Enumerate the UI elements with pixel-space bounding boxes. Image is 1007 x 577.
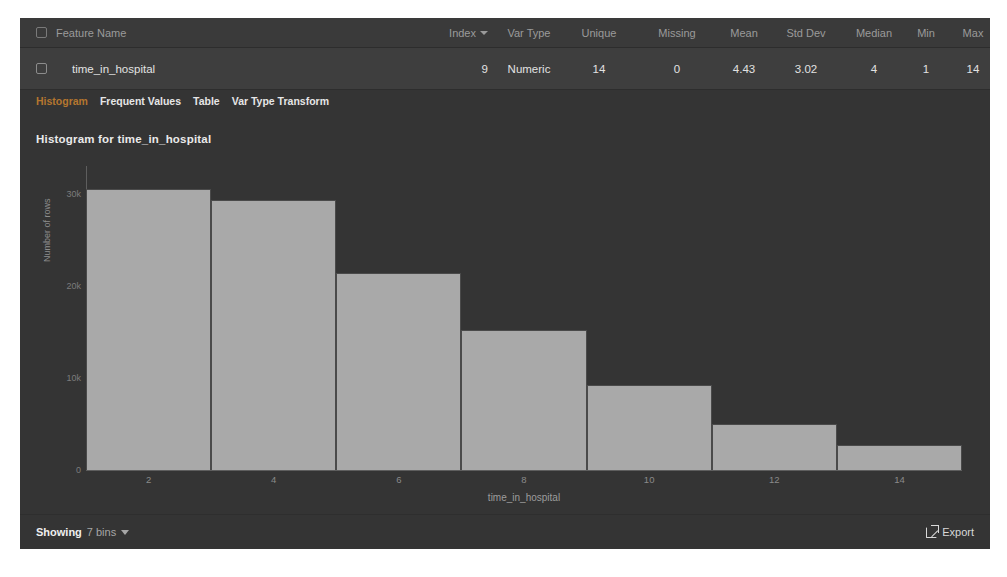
histogram-bar[interactable] (461, 330, 586, 470)
checkbox-icon (36, 63, 47, 74)
column-label: Median (856, 27, 892, 39)
feature-table-header: Feature Name Index Var Type Unique Missi… (20, 18, 990, 48)
x-tick-label: 8 (521, 474, 526, 485)
app-root: Feature Name Index Var Type Unique Missi… (0, 0, 1007, 577)
histogram-bar[interactable] (211, 200, 336, 470)
cell-var-type: Numeric (498, 48, 560, 89)
histogram-bar[interactable] (587, 385, 712, 470)
cell-min: 1 (908, 48, 944, 89)
column-label: Missing (658, 27, 695, 39)
column-label: Feature Name (56, 27, 126, 39)
cell-missing: 0 (648, 48, 706, 89)
checkbox-icon (36, 27, 47, 38)
plot-area: Number of rows time_in_hospital 010k20k3… (72, 166, 962, 470)
cell-max: 14 (956, 48, 990, 89)
histogram-bar[interactable] (837, 445, 962, 470)
tab-histogram[interactable]: Histogram (36, 90, 88, 112)
y-tick-label: 10k (66, 373, 81, 383)
column-header-max[interactable]: Max (956, 18, 990, 47)
cell-index: 9 (436, 48, 488, 89)
column-header-median[interactable]: Median (848, 18, 900, 47)
tab-frequent-values[interactable]: Frequent Values (100, 90, 181, 112)
chevron-down-icon (121, 530, 129, 535)
export-label: Export (942, 526, 974, 538)
column-label: Min (917, 27, 935, 39)
chevron-down-icon (480, 31, 488, 35)
detail-tabs: Histogram Frequent Values Table Var Type… (20, 90, 990, 112)
cell-mean: 4.43 (720, 48, 768, 89)
showing-label: Showing (36, 526, 82, 538)
external-link-icon (926, 527, 937, 538)
column-header-std-dev[interactable]: Std Dev (780, 18, 832, 47)
histogram-bar[interactable] (712, 424, 837, 470)
y-tick-label: 20k (66, 281, 81, 291)
histogram-chart: Histogram for time_in_hospital Number of… (20, 122, 990, 514)
cell-feature-name: time_in_hospital (72, 48, 452, 89)
column-header-mean[interactable]: Mean (720, 18, 768, 47)
column-label: Std Dev (786, 27, 825, 39)
column-label: Unique (582, 27, 617, 39)
y-tick-label: 30k (66, 189, 81, 199)
x-tick-label: 4 (271, 474, 276, 485)
histogram-bar[interactable] (336, 273, 461, 470)
column-header-unique[interactable]: Unique (572, 18, 626, 47)
column-label: Max (963, 27, 984, 39)
cell-unique: 14 (572, 48, 626, 89)
column-label: Var Type (507, 27, 550, 39)
y-axis-label: Number of rows (42, 198, 52, 262)
column-header-index[interactable]: Index (436, 18, 488, 47)
x-tick-label: 6 (396, 474, 401, 485)
x-axis-line (86, 470, 962, 471)
x-tick-label: 10 (644, 474, 655, 485)
select-all-checkbox[interactable] (30, 18, 52, 47)
column-header-min[interactable]: Min (908, 18, 944, 47)
cell-median: 4 (848, 48, 900, 89)
export-button[interactable]: Export (926, 526, 974, 538)
column-label: Mean (730, 27, 758, 39)
y-tick-label: 0 (76, 465, 81, 475)
x-tick-label: 2 (146, 474, 151, 485)
row-select-checkbox[interactable] (30, 48, 52, 89)
histogram-bar[interactable] (86, 189, 211, 470)
table-row[interactable]: time_in_hospital 9 Numeric 14 0 4.43 3.0… (20, 48, 990, 90)
x-tick-label: 12 (769, 474, 780, 485)
chart-title: Histogram for time_in_hospital (36, 133, 211, 145)
bins-value: 7 bins (87, 526, 116, 538)
cell-std-dev: 3.02 (780, 48, 832, 89)
x-axis-label: time_in_hospital (86, 492, 962, 503)
column-label: Index (449, 27, 476, 39)
column-header-var-type[interactable]: Var Type (498, 18, 560, 47)
column-header-missing[interactable]: Missing (648, 18, 706, 47)
tab-table[interactable]: Table (193, 90, 220, 112)
chart-footer: Showing 7 bins Export (20, 514, 990, 549)
bins-selector[interactable]: Showing 7 bins (36, 526, 129, 538)
tab-var-type-transform[interactable]: Var Type Transform (232, 90, 329, 112)
column-header-feature-name[interactable]: Feature Name (56, 18, 436, 47)
feature-detail-panel: Feature Name Index Var Type Unique Missi… (20, 18, 990, 549)
x-tick-label: 14 (894, 474, 905, 485)
